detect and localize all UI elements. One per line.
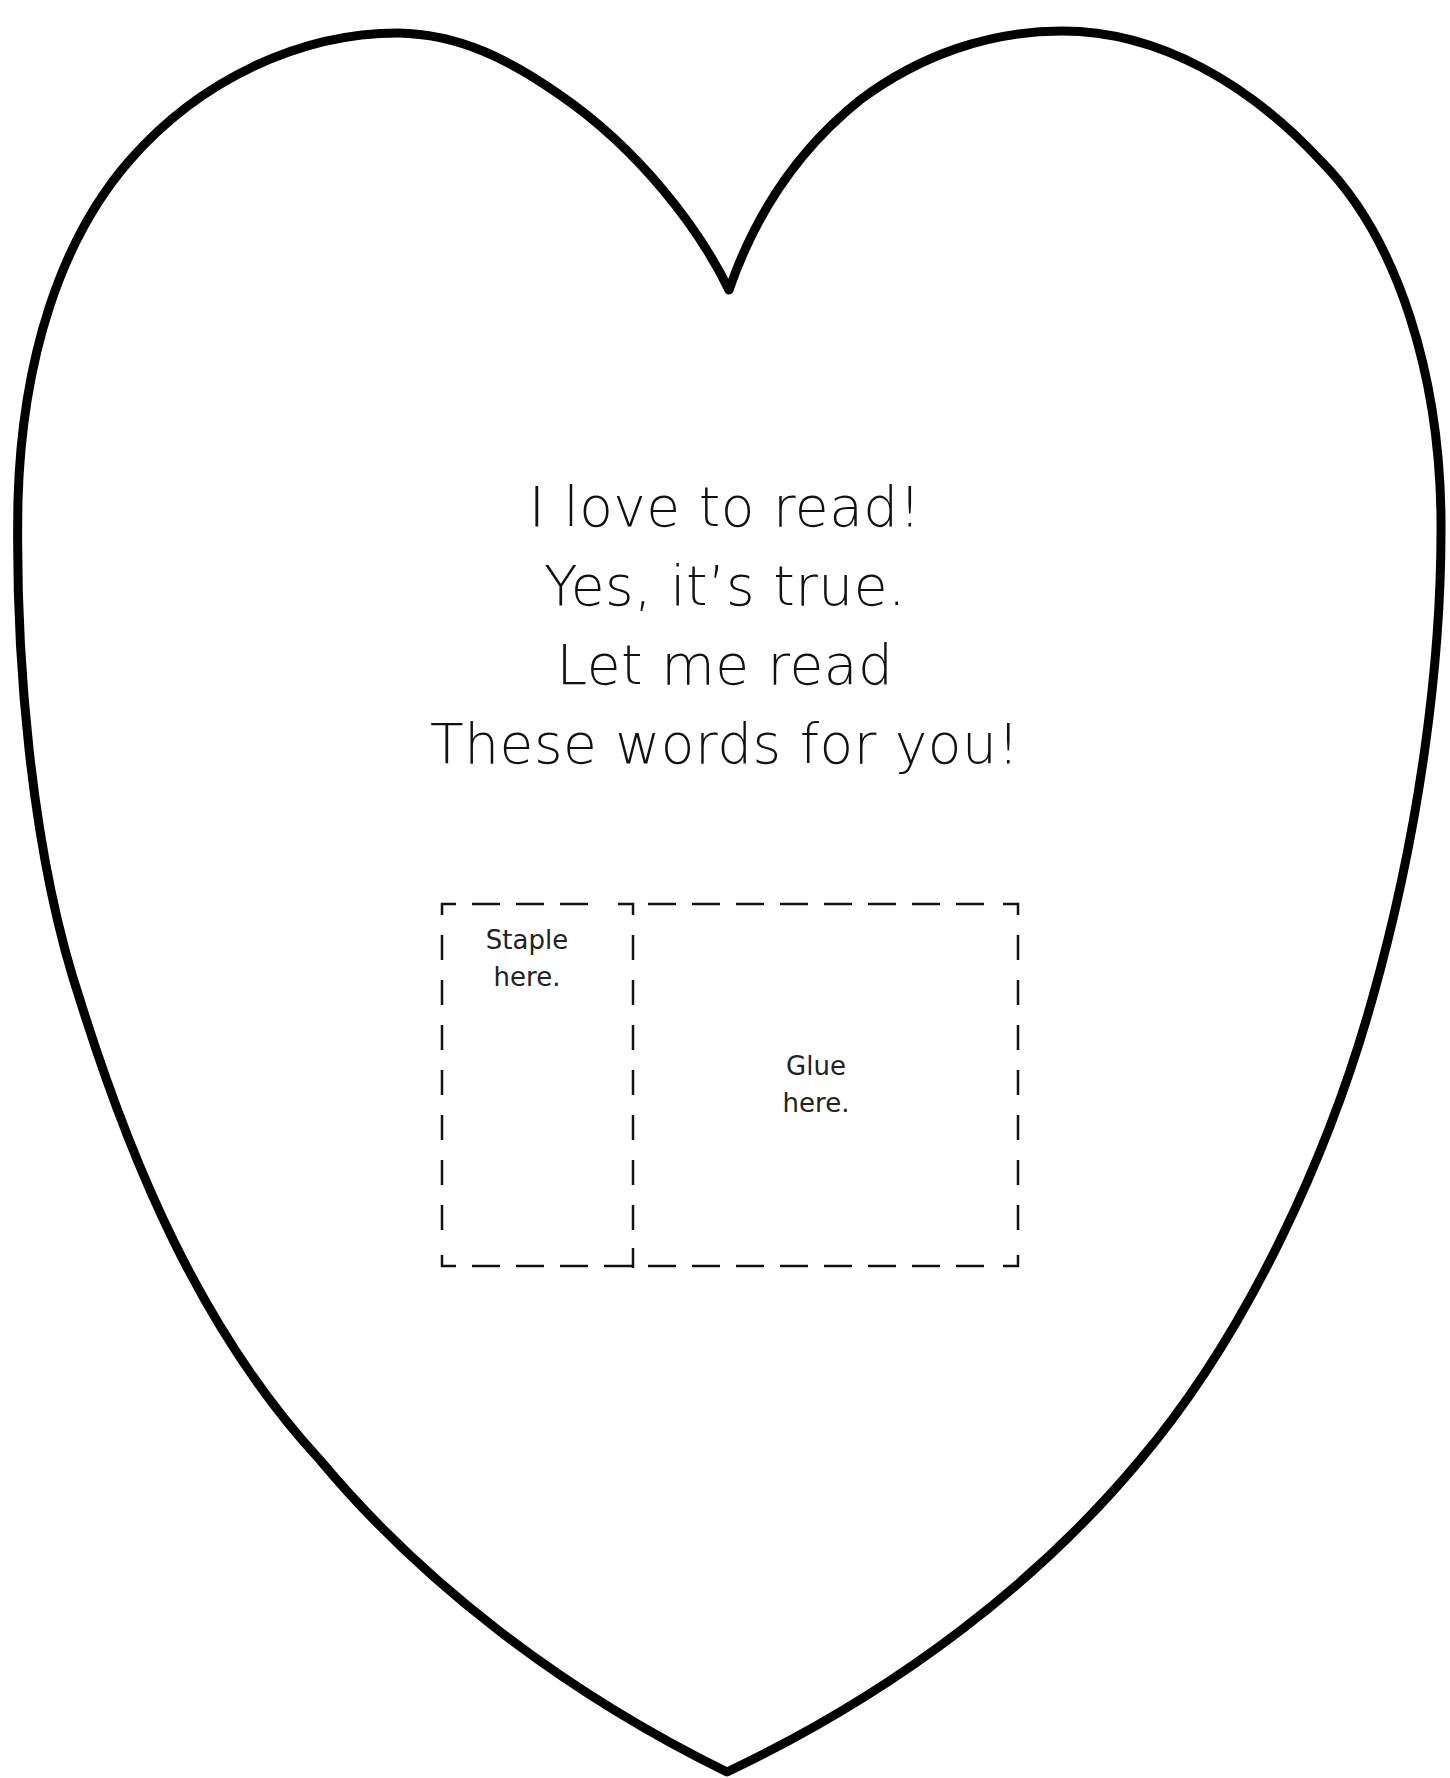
staple-here-label: Staple here.	[442, 922, 612, 996]
heart-shape	[18, 31, 1441, 1772]
staple-label-line1: Staple	[442, 922, 612, 959]
poem-text: I love to read! Yes, it’s true. Let me r…	[0, 468, 1450, 784]
poem-line-2: Yes, it’s true.	[0, 547, 1450, 626]
poem-line-1: I love to read!	[0, 468, 1450, 547]
poem-line-4: These words for you!	[0, 705, 1450, 784]
glue-here-box: Glue here.	[633, 904, 1018, 1266]
staple-label-line2: here.	[442, 959, 612, 996]
poem-line-3: Let me read	[0, 626, 1450, 705]
staple-here-box: Staple here.	[442, 904, 633, 1266]
glue-here-label: Glue here.	[761, 1048, 871, 1122]
heart-outline	[0, 0, 1450, 1778]
glue-label-line2: here.	[761, 1085, 871, 1122]
glue-label-line1: Glue	[761, 1048, 871, 1085]
